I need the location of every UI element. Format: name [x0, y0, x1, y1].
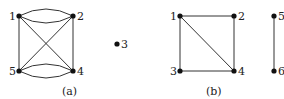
node-a-1: [16, 13, 21, 18]
node-label-b-6: 6: [278, 65, 284, 78]
edge-a-1-2-upper: [19, 9, 73, 16]
node-label-a-2: 2: [77, 10, 84, 23]
node-b-5: [271, 13, 276, 18]
node-a-2: [70, 13, 75, 18]
graph-a: [19, 9, 73, 78]
node-b-3: [177, 68, 182, 73]
graph-b: [180, 16, 274, 71]
node-a-5: [16, 68, 21, 73]
node-b-4: [231, 68, 236, 73]
node-b-1: [177, 13, 182, 18]
edge-a-5-4-upper: [19, 64, 73, 71]
caption-a: (a): [62, 85, 77, 98]
node-label-b-4: 4: [238, 65, 245, 78]
node-label-a-1: 1: [9, 10, 16, 23]
edge-a-1-2-lower: [19, 16, 73, 23]
node-label-b-5: 5: [278, 10, 284, 23]
node-label-a-3: 3: [121, 38, 128, 51]
node-label-b-2: 2: [238, 10, 245, 23]
graph-a-nodes: [16, 13, 119, 73]
caption-b: (b): [206, 85, 222, 98]
node-label-a-4: 4: [77, 65, 84, 78]
node-a-4: [70, 68, 75, 73]
node-b-2: [231, 13, 236, 18]
node-label-a-5: 5: [9, 65, 16, 78]
edge-a-5-4-lower: [19, 71, 73, 78]
node-label-b-1: 1: [170, 10, 177, 23]
node-b-6: [271, 68, 276, 73]
edge-b-1-4: [180, 16, 234, 71]
node-a-3: [114, 41, 119, 46]
graph-diagram: 1 2 3 4 5 (a) 1 2 3 4 5 6 (b): [0, 0, 284, 99]
graph-a-labels: 1 2 3 4 5 (a): [9, 10, 128, 98]
node-label-b-3: 3: [170, 65, 177, 78]
